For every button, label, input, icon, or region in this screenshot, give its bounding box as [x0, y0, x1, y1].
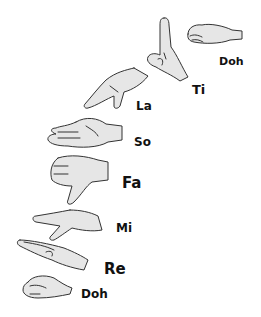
label-so: So	[134, 136, 151, 148]
label-ti: Ti	[192, 83, 205, 96]
label-doh-bottom: Doh	[81, 288, 108, 300]
mi-hand-icon	[30, 208, 104, 242]
label-doh-top: Doh	[219, 56, 244, 67]
doh-bottom-hand-icon	[20, 272, 74, 300]
re-hand-icon	[16, 238, 90, 272]
label-fa: Fa	[122, 176, 142, 191]
fa-hand-icon	[48, 154, 110, 206]
so-hand-icon	[46, 114, 124, 150]
label-mi: Mi	[116, 222, 132, 234]
label-la: La	[136, 100, 152, 112]
doh-top-hand-icon	[184, 20, 244, 46]
label-re: Re	[104, 262, 126, 277]
